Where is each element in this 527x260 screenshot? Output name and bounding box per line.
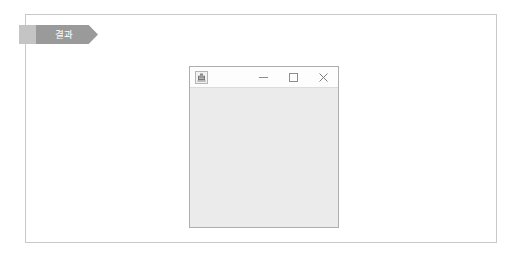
banner-main-chevron: 결과 <box>36 25 98 44</box>
result-banner-label: 결과 <box>55 30 74 40</box>
result-banner: 결과 <box>19 25 98 44</box>
window-client-area[interactable] <box>190 88 338 227</box>
window-minimize-button[interactable] <box>248 67 278 87</box>
window-titlebar[interactable] <box>190 67 338 88</box>
window-maximize-button[interactable] <box>278 67 308 87</box>
window-close-button[interactable] <box>308 67 338 87</box>
app-icon <box>195 71 208 84</box>
application-window[interactable] <box>189 66 339 228</box>
